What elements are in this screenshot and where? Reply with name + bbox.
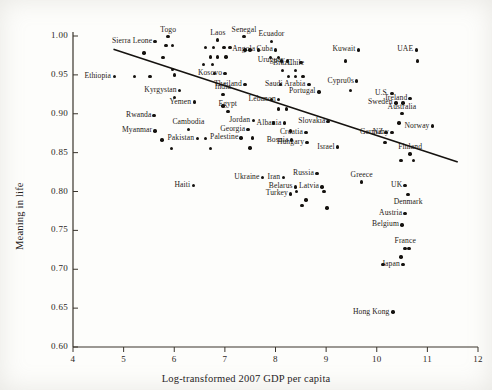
point-label: Belgium xyxy=(372,220,399,228)
point-label: Latvia xyxy=(299,182,319,190)
data-point xyxy=(152,114,155,117)
data-point xyxy=(397,121,400,124)
data-point xyxy=(403,212,406,215)
x-tick-label: 12 xyxy=(458,354,492,364)
x-tick-label: 10 xyxy=(357,354,397,364)
x-tick-label: 5 xyxy=(104,354,144,364)
point-label: Turkey xyxy=(266,189,288,197)
data-point xyxy=(399,255,402,258)
data-point xyxy=(251,136,254,139)
data-point xyxy=(390,131,393,134)
x-axis-title: Log-transformed 2007 GDP per capita xyxy=(0,373,492,384)
point-label: Iran xyxy=(268,173,281,181)
data-point xyxy=(305,141,308,144)
point-label: Israel xyxy=(317,143,334,151)
point-label: Jordan xyxy=(229,116,250,124)
data-point xyxy=(192,184,195,187)
point-label: Myanmar xyxy=(122,126,152,134)
data-point xyxy=(248,146,251,149)
x-tick-label: 4 xyxy=(53,354,93,364)
y-tick-label: 0.65 xyxy=(28,302,68,312)
point-label: Hong Kong xyxy=(353,308,390,316)
data-point xyxy=(228,46,231,49)
data-point xyxy=(224,55,227,58)
data-point xyxy=(153,129,156,132)
data-point xyxy=(391,310,394,313)
data-point xyxy=(283,121,286,124)
y-tick-label: 0.85 xyxy=(28,147,68,157)
data-point xyxy=(307,83,310,86)
data-point xyxy=(407,247,410,250)
data-point xyxy=(301,75,304,78)
point-label: Croatia xyxy=(280,128,303,136)
point-label: Palestine xyxy=(210,133,238,141)
point-label: Ireland xyxy=(385,94,407,102)
point-label: Cypru0s xyxy=(328,77,354,85)
data-point xyxy=(399,159,402,162)
data-point xyxy=(416,59,419,62)
data-point xyxy=(153,40,156,43)
data-point xyxy=(412,159,415,162)
point-label: Cuba xyxy=(257,45,273,53)
data-point xyxy=(277,107,280,110)
data-point xyxy=(142,51,145,54)
data-point xyxy=(274,48,277,51)
data-point xyxy=(400,223,403,226)
data-point xyxy=(289,192,292,195)
data-point xyxy=(344,59,347,62)
data-point xyxy=(160,138,163,141)
point-label: UK xyxy=(391,181,402,189)
point-label: Kosovo xyxy=(198,69,222,77)
data-point xyxy=(360,180,363,183)
data-point xyxy=(355,79,358,82)
point-label: Ecuador xyxy=(258,30,284,38)
x-tick-label: 9 xyxy=(306,354,346,364)
data-point xyxy=(315,172,318,175)
point-label: Portugal xyxy=(289,87,316,95)
point-label: Germany xyxy=(360,128,389,136)
point-label: Senegal xyxy=(232,26,257,34)
point-label: Chile xyxy=(287,59,304,67)
point-label: Greece xyxy=(351,171,373,179)
point-label: Georgia xyxy=(220,125,245,133)
data-point xyxy=(300,204,303,207)
data-point xyxy=(408,152,411,155)
data-point xyxy=(408,97,411,100)
data-point xyxy=(221,93,224,96)
data-point xyxy=(171,44,174,47)
data-point xyxy=(246,128,249,131)
point-label: Pakistan xyxy=(168,134,195,142)
data-point xyxy=(403,184,406,187)
data-point xyxy=(193,100,196,103)
data-point xyxy=(173,73,176,76)
point-label: Japan xyxy=(382,260,400,268)
x-tick-label: 11 xyxy=(407,354,447,364)
point-label: Yemen xyxy=(170,98,192,106)
point-label: Austria xyxy=(379,209,402,217)
data-point xyxy=(243,48,246,51)
point-label: Rwanda xyxy=(126,111,151,119)
data-point xyxy=(401,263,404,266)
data-point xyxy=(226,110,229,113)
data-point xyxy=(415,48,418,51)
point-label: Ukraine xyxy=(234,173,259,181)
data-point xyxy=(148,75,151,78)
data-point xyxy=(187,128,190,131)
point-label: Egypt xyxy=(218,100,237,108)
data-point xyxy=(272,121,275,124)
point-label: Hungary xyxy=(277,138,304,146)
data-point xyxy=(383,141,386,144)
data-point xyxy=(381,263,384,266)
point-label: Laos xyxy=(210,29,225,37)
data-point xyxy=(304,131,307,134)
data-point xyxy=(164,44,167,47)
data-point xyxy=(326,120,329,123)
data-point xyxy=(171,68,174,71)
data-point xyxy=(304,198,307,201)
x-tick-label: 6 xyxy=(154,354,194,364)
y-tick-label: 1.00 xyxy=(28,30,68,40)
data-point xyxy=(243,83,246,86)
point-label: Kyrgystan xyxy=(144,86,176,94)
data-point xyxy=(239,136,242,139)
point-label: Cambodia xyxy=(172,118,204,126)
